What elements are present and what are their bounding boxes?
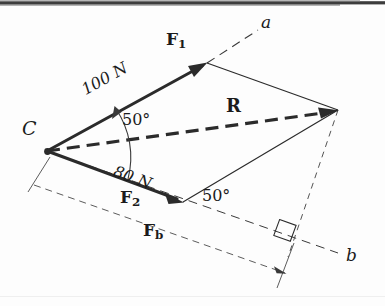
label-projection-fb: Fb xyxy=(143,222,163,242)
scan-artifact-bottom xyxy=(0,296,385,297)
dimension-tick-right xyxy=(277,243,294,288)
f1-arrowhead xyxy=(188,63,208,77)
label-force2: F2 xyxy=(120,189,140,209)
label-projection-letter: F xyxy=(143,220,155,240)
label-force1-subscript: 1 xyxy=(178,37,186,51)
point-c-dot xyxy=(44,148,51,155)
axis-a-line xyxy=(207,30,258,63)
figure-canvas: C F1 100 N 50° 80 N F2 R 50° Fb a b xyxy=(0,0,385,306)
label-axis-a: a xyxy=(261,14,271,31)
label-axis-b: b xyxy=(346,247,357,264)
label-force2-subscript: 2 xyxy=(132,195,140,209)
label-angle-upper: 50° xyxy=(122,112,150,128)
vector-r xyxy=(47,108,339,152)
vector-diagram-svg xyxy=(0,0,385,306)
label-angle-lower: 50° xyxy=(202,188,230,204)
label-resultant: R xyxy=(226,97,241,115)
label-force2-letter: F xyxy=(120,187,132,207)
label-point-c: C xyxy=(22,119,37,138)
angle-arc-upper-arrowhead xyxy=(112,106,122,119)
right-angle-marker xyxy=(274,220,296,242)
scan-artifact-bar xyxy=(0,0,385,5)
label-force1-letter: F xyxy=(166,29,178,49)
label-projection-subscript: b xyxy=(155,228,163,242)
label-force1: F1 xyxy=(166,31,186,51)
perpendicular-from-rtip xyxy=(288,110,338,257)
